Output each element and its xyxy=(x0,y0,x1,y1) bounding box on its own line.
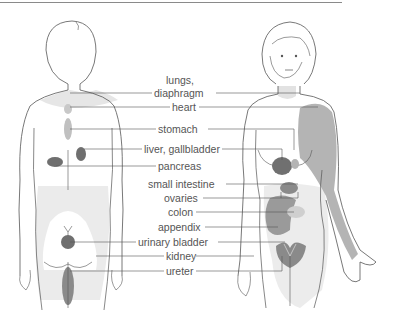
back-figure xyxy=(19,21,123,310)
label-colon: colon xyxy=(168,206,193,218)
label-kidney: kidney xyxy=(166,250,196,262)
label-appendix: appendix xyxy=(158,221,201,233)
label-pancreas: pancreas xyxy=(158,160,201,172)
label-small-intestine: small intestine xyxy=(148,178,215,190)
front-figure xyxy=(238,22,376,308)
label-urinary-bladder: urinary bladder xyxy=(138,236,208,248)
label-ovaries: ovaries xyxy=(164,192,198,204)
label-diaphragm: diaphragm xyxy=(154,87,204,99)
label-liver-gallbladder: liver, gallbladder xyxy=(144,143,220,155)
label-lungs: lungs, xyxy=(166,74,194,86)
label-heart: heart xyxy=(172,101,196,113)
label-ureter: ureter xyxy=(166,265,193,277)
label-stomach: stomach xyxy=(158,123,198,135)
